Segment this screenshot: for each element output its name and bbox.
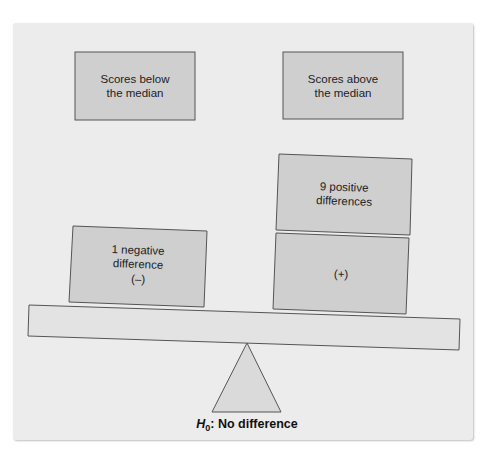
- header-box-above: Scores above the median: [283, 52, 403, 119]
- header-box-above-line1: Scores above: [308, 73, 378, 85]
- negative-sign-label: (–): [131, 273, 146, 285]
- positive-sign-label: (+): [334, 268, 349, 281]
- header-box-below-line1: Scores below: [100, 73, 170, 85]
- fulcrum-triangle: [212, 343, 281, 412]
- positive-box-line1: 9 positive: [320, 180, 369, 194]
- header-box-below: Scores below the median: [75, 52, 195, 120]
- negative-box-line1: 1 negative: [111, 243, 164, 257]
- positive-differences-box-bottom: (+): [273, 233, 409, 314]
- positive-differences-box-top: 9 positive differences: [276, 154, 412, 235]
- h0-text: : No difference: [210, 417, 298, 431]
- balance-diagram: Scores below the median Scores above the…: [0, 0, 485, 458]
- negative-box-line2: difference: [113, 257, 164, 271]
- null-hypothesis-label: H0: No difference: [196, 417, 298, 433]
- header-box-below-line2: the median: [107, 87, 164, 99]
- positive-box-line2: differences: [316, 194, 373, 208]
- negative-difference-box: 1 negative difference (–): [69, 226, 207, 307]
- header-box-above-line2: the median: [315, 87, 372, 99]
